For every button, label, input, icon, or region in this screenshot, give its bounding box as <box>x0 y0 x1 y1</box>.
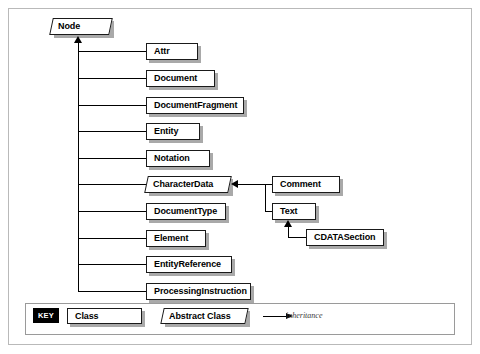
class-box-node[interactable]: Node <box>51 18 111 35</box>
connector-entity <box>78 131 146 132</box>
class-box-documentfragment[interactable]: DocumentFragment <box>146 97 244 114</box>
connector-document <box>78 78 146 79</box>
trunk-line-node <box>78 42 79 291</box>
class-label-attr: Attr <box>147 47 170 56</box>
connector-cdatasection <box>288 237 306 238</box>
connector-documentfragment <box>78 105 146 106</box>
class-box-characterdata[interactable]: CharacterData <box>146 176 230 193</box>
connector-entityreference <box>78 264 146 265</box>
connector-processinginstruction <box>78 291 146 292</box>
connector-comment <box>265 184 272 185</box>
class-box-documenttype[interactable]: DocumentType <box>146 203 226 220</box>
class-label-entityreference: EntityReference <box>147 260 221 269</box>
class-box-processinginstruction[interactable]: ProcessingInstruction <box>146 283 251 300</box>
class-label-documenttype: DocumentType <box>147 207 217 216</box>
class-box-entity[interactable]: Entity <box>146 123 200 140</box>
connector-characterdata <box>78 184 146 185</box>
class-label-node: Node <box>51 22 80 31</box>
connector-characterdata-junction <box>238 184 265 185</box>
class-box-attr[interactable]: Attr <box>146 43 198 60</box>
class-box-comment[interactable]: Comment <box>272 176 340 193</box>
class-box-notation[interactable]: Notation <box>146 150 210 167</box>
connector-text <box>265 211 272 212</box>
class-label-entity: Entity <box>147 127 178 136</box>
class-box-entityreference[interactable]: EntityReference <box>146 256 232 273</box>
class-label-characterdata: CharacterData <box>146 180 213 189</box>
class-box-cdatasection[interactable]: CDATASection <box>306 229 384 246</box>
key-inheritance-arrow-shaft <box>263 316 287 317</box>
key-badge: KEY <box>33 308 59 323</box>
class-label-cdatasection: CDATASection <box>307 233 375 242</box>
class-hierarchy-diagram: Node Attr Document DocumentFragment Enti… <box>0 0 480 354</box>
key-abstract-class-sample: Abstract Class <box>162 308 247 324</box>
connector-notation <box>78 158 146 159</box>
key-inheritance-label: inheritance <box>286 311 322 320</box>
key-class-sample: Class <box>67 308 142 324</box>
key-class-sample-label: Class <box>68 312 99 321</box>
connector-documenttype <box>78 211 146 212</box>
class-label-comment: Comment <box>273 180 321 189</box>
connector-element <box>78 238 146 239</box>
key-abstract-class-sample-label: Abstract Class <box>162 312 231 321</box>
inheritance-arrowhead-characterdata <box>231 180 238 188</box>
class-label-element: Element <box>147 234 188 243</box>
junction-line-characterdata <box>265 184 266 211</box>
class-box-document[interactable]: Document <box>146 70 215 87</box>
connector-attr <box>78 51 146 52</box>
class-box-element[interactable]: Element <box>146 230 206 247</box>
class-box-text[interactable]: Text <box>272 203 316 220</box>
class-label-notation: Notation <box>147 154 190 163</box>
class-label-document: Document <box>147 74 197 83</box>
class-label-text: Text <box>273 207 297 216</box>
class-label-processinginstruction: ProcessingInstruction <box>147 287 247 296</box>
class-label-documentfragment: DocumentFragment <box>147 101 237 110</box>
